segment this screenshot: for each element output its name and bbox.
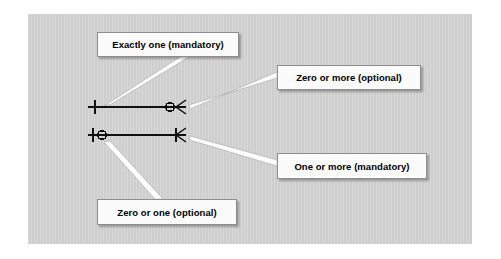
callout-one-or-more[interactable]: One or more (mandatory) xyxy=(277,153,427,179)
symbol-crowsfoot-right-1 xyxy=(176,100,186,114)
callout-exactly-one[interactable]: Exactly one (mandatory) xyxy=(97,32,239,57)
callout-exactly-one-label: Exactly one (mandatory) xyxy=(112,39,224,50)
cardinality-symbols-layer xyxy=(0,0,501,259)
diagram-canvas: Exactly one (mandatory) Zero or more (op… xyxy=(0,0,501,259)
symbol-crowsfoot-right-2 xyxy=(176,128,186,142)
callout-zero-or-one-label: Zero or one (optional) xyxy=(117,207,216,218)
callout-zero-or-more[interactable]: Zero or more (optional) xyxy=(277,65,421,90)
callout-zero-or-more-label: Zero or more (optional) xyxy=(296,72,402,83)
callout-one-or-more-label: One or more (mandatory) xyxy=(294,161,409,172)
callout-zero-or-one[interactable]: Zero or one (optional) xyxy=(97,199,237,225)
